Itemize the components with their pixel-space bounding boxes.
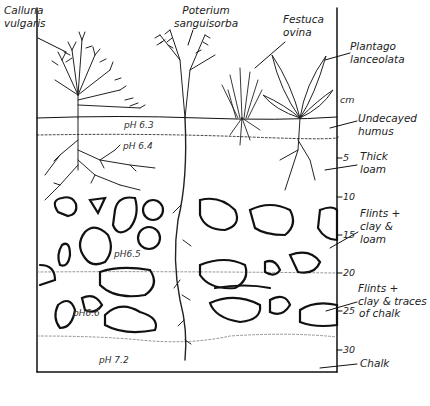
label-poterium-sanguisorba: Poterium sanguisorba xyxy=(174,4,238,30)
plant-name-line2: lanceolata xyxy=(350,53,405,66)
label-undecayed-humus: Undecayed humus xyxy=(358,112,417,138)
label-of-chalk: of chalk xyxy=(359,307,400,320)
plant-name-line1: Plantago xyxy=(350,40,405,53)
horizon-line3: loam xyxy=(360,233,400,246)
horizon-line1: Thick xyxy=(360,150,388,163)
label-plantago-lanceolata: Plantago lanceolata xyxy=(350,40,405,66)
ph-label-humus: pH 6.3 xyxy=(124,120,154,130)
plant-name-line2: sanguisorba xyxy=(174,17,238,30)
plant-name-line1: Poterium xyxy=(174,4,238,17)
horizon-line1: Flints + xyxy=(360,207,400,220)
label-flints-clay-loam: Flints + clay & loam xyxy=(360,207,400,246)
label-chalk: Chalk xyxy=(360,357,389,370)
label-flints-clay-chalk: Flints + clay & traces xyxy=(358,282,427,308)
horizon-line2: loam xyxy=(360,163,388,176)
horizon-line2: humus xyxy=(358,125,417,138)
scale-tick-5: 5 xyxy=(343,152,349,163)
ph-label-flints-loam: pH6.5 xyxy=(114,249,141,259)
plant-name-line2: vulgaris xyxy=(4,17,46,30)
scale-tick-20: 20 xyxy=(343,267,355,278)
horizon-line2: clay & xyxy=(360,220,400,233)
horizon-line1: Undecayed xyxy=(358,112,417,125)
label-festuca-ovina: Festuca ovina xyxy=(283,13,324,39)
plant-name-line2: ovina xyxy=(283,26,324,39)
horizon-line1: Flints + xyxy=(358,282,427,295)
ph-label-chalk: pH 7.2 xyxy=(99,355,129,365)
label-calluna-vulgaris: Calluna vulgaris xyxy=(4,4,46,30)
label-thick-loam: Thick loam xyxy=(360,150,388,176)
ph-label-flints-chalk: pH6.6 xyxy=(73,308,100,318)
scale-tick-15: 15 xyxy=(343,229,355,240)
ph-label-loam: pH 6.4 xyxy=(123,141,153,151)
scale-tick-10: 10 xyxy=(343,191,355,202)
scale-unit: cm xyxy=(340,94,354,105)
scale-tick-25: 25 xyxy=(343,305,355,316)
scale-tick-30: 30 xyxy=(343,344,355,355)
plant-name-line1: Festuca xyxy=(283,13,324,26)
plant-name-line1: Calluna xyxy=(4,4,46,17)
